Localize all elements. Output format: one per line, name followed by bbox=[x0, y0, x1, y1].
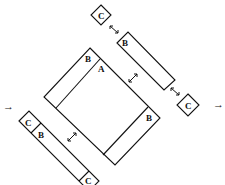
label-lower-strip-b: B bbox=[38, 130, 44, 140]
diagram-canvas: B A B B C C C B C → → bbox=[0, 0, 225, 185]
label-lower-left-c: C bbox=[25, 118, 32, 128]
label-lower-bottom-c: C bbox=[85, 176, 92, 185]
label-main-right-b: B bbox=[146, 113, 152, 123]
output-arrow-icon: → bbox=[213, 98, 224, 110]
double-arrow-icon bbox=[171, 88, 179, 95]
label-upper-strip-b: B bbox=[122, 38, 128, 48]
input-arrow-icon: → bbox=[3, 100, 14, 112]
label-right-c: C bbox=[185, 101, 192, 111]
double-arrow-icon bbox=[68, 133, 76, 141]
label-top-c: C bbox=[98, 11, 105, 21]
double-arrow-icon bbox=[129, 74, 137, 82]
label-main-a: A bbox=[98, 64, 105, 74]
double-arrow-icon bbox=[110, 26, 118, 33]
label-main-top-b: B bbox=[85, 54, 91, 64]
